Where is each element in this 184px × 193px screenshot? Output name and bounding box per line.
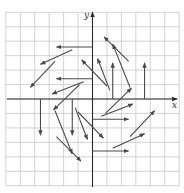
vector-arrow (104, 37, 129, 62)
vector-field-figure: x y (0, 0, 184, 193)
vector-arrow (113, 134, 145, 148)
vector-arrow (98, 59, 110, 91)
x-axis-label: x (172, 100, 177, 110)
vector-arrow (75, 108, 87, 140)
y-axis-label: y (83, 10, 90, 20)
vector-arrow (52, 82, 84, 94)
vector-arrow (130, 111, 155, 137)
vector-arrow (101, 104, 133, 116)
coordinate-axes: x y (7, 10, 177, 187)
vector-arrow (40, 50, 72, 64)
vector-arrow (56, 137, 81, 162)
vector-arrow (30, 61, 55, 87)
